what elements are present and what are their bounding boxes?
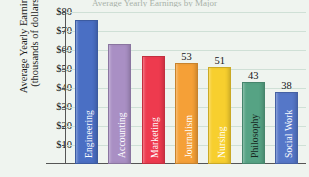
bar-engineering[interactable]: Engineering — [75, 20, 98, 164]
bar-label: Marketing — [149, 117, 160, 158]
bar-value-label: 53 — [175, 51, 198, 62]
bar-label: Nursing — [216, 126, 227, 158]
bar-value-label: 51 — [208, 55, 231, 66]
bar-value-label: 38 — [275, 80, 298, 91]
bar-slot: Nursing51 — [205, 12, 239, 164]
bar-nursing[interactable]: Nursing — [208, 67, 231, 164]
bar-social-work[interactable]: Social Work — [275, 92, 298, 164]
bar-label: Journalism — [183, 115, 194, 158]
bar-chart: Average Yearly Earnings by Major Average… — [0, 0, 309, 177]
bar-label: Social Work — [283, 110, 294, 158]
bar-slot: Journalism53 — [172, 12, 206, 164]
bar-journalism[interactable]: Journalism — [175, 63, 198, 164]
bar-slot: Marketing — [139, 12, 173, 164]
bar-accounting[interactable]: Accounting — [108, 44, 131, 164]
bar-slot: Accounting — [105, 12, 139, 164]
bar-value-label: 43 — [242, 70, 265, 81]
bar-label: Engineering — [83, 110, 94, 158]
bars-group: EngineeringAccountingMarketingJournalism… — [66, 12, 306, 164]
bar-marketing[interactable]: Marketing — [142, 56, 165, 164]
bar-label: Philosophy — [249, 114, 260, 158]
bar-slot: Engineering — [72, 12, 106, 164]
bar-slot: Social Work38 — [272, 12, 306, 164]
bar-slot: Philosophy43 — [239, 12, 273, 164]
bar-philosophy[interactable]: Philosophy — [242, 82, 265, 164]
bar-label: Accounting — [116, 112, 127, 158]
plot-area: EngineeringAccountingMarketingJournalism… — [66, 12, 306, 164]
